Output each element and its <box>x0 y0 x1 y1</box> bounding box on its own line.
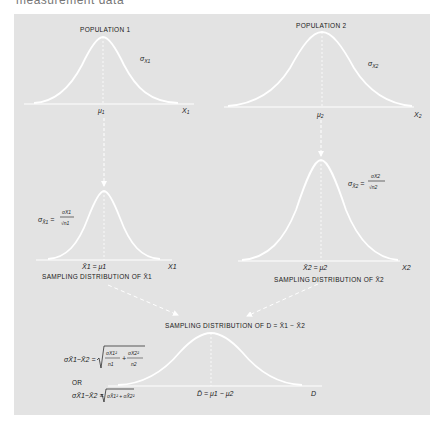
sampling-1-formula-numerator: σX1 <box>62 209 71 215</box>
difference-curve <box>118 333 302 385</box>
population-2-sigma-label: σX2 <box>368 60 379 69</box>
sampling-distribution-diagram: POPULATION 1 σX1 μ1 X1 POPULATION 2 σX2 … <box>0 0 442 429</box>
population-2-title: POPULATION 2 <box>296 22 347 29</box>
population-1-chart: POPULATION 1 σX1 μ1 X1 <box>24 26 194 115</box>
sampling-2-caption: SAMPLING DISTRIBUTION OF X̄2 <box>274 276 384 283</box>
difference-caption: SAMPLING DISTRIBUTION OF D = X̄1 − X̄2 <box>165 322 305 329</box>
difference-axis-label: D <box>311 390 316 397</box>
arrow-sampling-2-to-difference <box>247 284 318 316</box>
difference-formula-1-plus: + <box>122 355 126 362</box>
arrow-sampling-1-to-difference <box>108 285 178 315</box>
sampling-1-formula-lhs: σX̄1 = <box>38 216 54 225</box>
sampling-1-axis-label: X1 <box>167 263 177 270</box>
population-1-sigma-label: σX1 <box>140 55 151 64</box>
difference-mean-label: D̄ = μ1 − μ2 <box>197 390 234 398</box>
sampling-1-formula-denominator: √n1 <box>61 220 70 226</box>
difference-formula-1-term1-num: σX1² <box>106 350 117 356</box>
sampling-1-mean-label: X̄1 = μ1 <box>81 263 106 271</box>
population-1-title: POPULATION 1 <box>80 26 131 33</box>
population-2-chart: POPULATION 2 σX2 μ2 X2 <box>224 22 422 119</box>
sampling-2-mean-label: X̄2 = μ2 <box>302 264 327 272</box>
population-2-curve <box>228 32 412 106</box>
sampling-2-formula-denominator: √n2 <box>369 184 378 190</box>
population-2-mean-label: μ2 <box>316 111 324 119</box>
sampling-2-chart: σX̄2 = σX2 √n2 X̄2 = μ2 X2 SAMPLING DIST… <box>238 160 411 283</box>
difference-formula-1-term1-den: n1 <box>108 361 114 367</box>
population-1-mean-label: μ1 <box>97 107 105 115</box>
sampling-1-caption: SAMPLING DISTRIBUTION OF X̄1 <box>42 273 152 280</box>
sampling-2-formula-numerator: σX2 <box>371 173 380 179</box>
difference-or-label: OR <box>72 379 82 386</box>
sampling-2-formula-lhs: σX̄2 = <box>348 180 364 189</box>
difference-formula-1-lhs: σX̄1−X̄2 = <box>64 356 95 363</box>
sampling-1-chart: σX̄1 = σX1 √n1 X̄1 = μ1 X1 SAMPLING DIST… <box>36 191 177 280</box>
difference-formula-1-term2-den: n2 <box>131 361 137 367</box>
difference-formula-2-rhs: σX̄1² + σX̄2² <box>107 393 135 399</box>
sampling-2-axis-label: X2 <box>401 264 411 271</box>
population-1-curve <box>34 37 178 103</box>
difference-chart: SAMPLING DISTRIBUTION OF D = X̄1 − X̄2 σ… <box>64 322 322 402</box>
difference-formula-1-term2-num: σX2² <box>128 350 139 356</box>
difference-formula-2-lhs: σX̄1−X̄2 = <box>72 392 103 399</box>
population-1-axis-label: X1 <box>181 107 190 115</box>
population-2-axis-label: X2 <box>413 111 422 119</box>
